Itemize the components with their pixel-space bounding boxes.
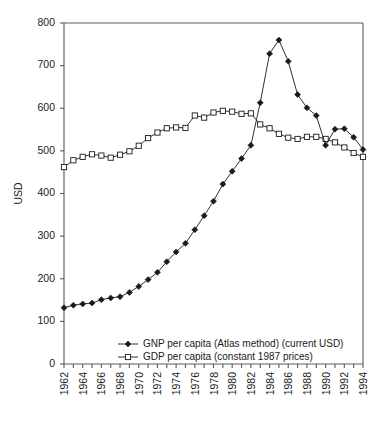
y-tick-label: 600 — [37, 101, 55, 113]
y-tick-label: 500 — [37, 144, 55, 156]
legend-label-gdp: GDP per capita (constant 1987 prices) — [143, 351, 313, 362]
x-tick-label: 1986 — [282, 372, 294, 396]
data-point-marker — [136, 283, 142, 289]
data-point-marker — [286, 135, 291, 140]
data-point-marker — [258, 122, 263, 127]
y-tick-label: 300 — [37, 229, 55, 241]
y-tick-label: 800 — [37, 16, 55, 28]
x-tick-label: 1968 — [114, 372, 126, 396]
data-point-marker — [295, 136, 300, 141]
data-point-marker — [70, 302, 76, 308]
data-point-marker — [89, 152, 94, 157]
data-point-marker — [71, 158, 76, 163]
data-point-marker — [304, 134, 309, 139]
legend-marker-gnp — [125, 341, 131, 347]
data-point-marker — [192, 113, 197, 118]
data-point-marker — [295, 92, 301, 98]
data-point-marker — [99, 153, 104, 158]
y-tick-label: 100 — [37, 314, 55, 326]
data-point-marker — [276, 131, 281, 136]
data-point-marker — [108, 155, 113, 160]
data-point-marker — [239, 156, 245, 162]
data-point-marker — [248, 111, 253, 116]
data-point-marker — [239, 111, 244, 116]
y-tick-label: 0 — [49, 357, 55, 369]
data-point-marker — [267, 126, 272, 131]
data-point-marker — [211, 110, 216, 115]
series-gnp — [61, 37, 366, 311]
data-point-marker — [108, 295, 114, 301]
data-point-marker — [351, 150, 356, 155]
data-point-marker — [360, 154, 365, 159]
y-axis-title: USD — [12, 182, 24, 205]
x-tick-label: 1962 — [58, 372, 70, 396]
data-point-marker — [201, 213, 207, 219]
data-point-marker — [211, 198, 217, 204]
data-point-marker — [80, 154, 85, 159]
data-point-marker — [314, 134, 319, 139]
data-point-marker — [61, 164, 66, 169]
data-point-marker — [117, 294, 123, 300]
data-point-marker — [126, 289, 132, 295]
data-point-marker — [220, 108, 225, 113]
series-gdp — [61, 108, 365, 169]
data-point-marker — [98, 297, 104, 303]
y-tick-label: 700 — [37, 58, 55, 70]
x-tick-label: 1972 — [151, 372, 163, 396]
x-tick-label: 1964 — [77, 372, 89, 396]
x-tick-label: 1966 — [95, 372, 107, 396]
x-tick-label: 1994 — [357, 372, 369, 396]
x-tick-label: 1984 — [264, 372, 276, 396]
data-point-marker — [267, 51, 273, 57]
data-point-marker — [80, 301, 86, 307]
data-point-marker — [89, 300, 95, 306]
data-point-marker — [192, 227, 198, 233]
legend-marker-gdp — [125, 354, 130, 359]
data-point-marker — [202, 115, 207, 120]
x-tick-label: 1990 — [320, 372, 332, 396]
x-tick-label: 1982 — [245, 372, 257, 396]
data-point-marker — [174, 125, 179, 130]
data-point-marker — [145, 135, 150, 140]
data-point-marker — [323, 142, 329, 148]
data-point-marker — [332, 140, 337, 145]
data-point-marker — [117, 152, 122, 157]
data-point-marker — [61, 305, 67, 311]
legend-label-gnp: GNP per capita (Atlas method) (current U… — [143, 338, 343, 349]
data-point-marker — [257, 100, 263, 106]
x-tick-label: 1992 — [338, 372, 350, 396]
data-point-marker — [164, 126, 169, 131]
data-point-marker — [127, 149, 132, 154]
x-tick-label: 1988 — [301, 372, 313, 396]
data-point-marker — [136, 143, 141, 148]
line-chart: 0100200300400500600700800USD196219641966… — [0, 0, 390, 436]
x-tick-label: 1970 — [133, 372, 145, 396]
data-point-marker — [285, 58, 291, 64]
data-point-marker — [342, 145, 347, 150]
legend: GNP per capita (Atlas method) (current U… — [118, 338, 343, 362]
data-point-marker — [230, 109, 235, 114]
data-point-marker — [332, 126, 338, 132]
y-tick-label: 200 — [37, 272, 55, 284]
series-gnp-line — [64, 40, 363, 308]
data-point-marker — [276, 37, 282, 43]
x-tick-label: 1974 — [170, 372, 182, 396]
x-tick-label: 1980 — [226, 372, 238, 396]
x-tick-label: 1976 — [189, 372, 201, 396]
data-point-marker — [220, 181, 226, 187]
data-point-marker — [155, 130, 160, 135]
x-tick-label: 1978 — [208, 372, 220, 396]
data-point-marker — [229, 168, 235, 174]
chart-container: 0100200300400500600700800USD196219641966… — [0, 0, 390, 436]
data-point-marker — [248, 142, 254, 148]
y-tick-label: 400 — [37, 186, 55, 198]
data-point-marker — [183, 125, 188, 130]
